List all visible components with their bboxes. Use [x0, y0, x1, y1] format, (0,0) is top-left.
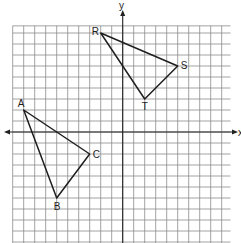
vertex-label-t: T — [142, 101, 148, 112]
y-axis-label: y — [119, 0, 124, 11]
vertex-label-c: C — [93, 149, 100, 160]
vertex-label-b: B — [54, 201, 61, 212]
axes: y x — [4, 0, 241, 243]
x-axis-label: x — [238, 127, 241, 138]
x-axis-left-arrow-icon — [4, 130, 10, 135]
grid — [13, 26, 231, 243]
coordinate-plane: y x ABCRST — [0, 0, 241, 243]
vertex-label-a: A — [18, 98, 25, 109]
vertex-label-s: S — [181, 60, 188, 71]
triangles: ABCRST — [18, 26, 188, 212]
vertex-label-r: R — [92, 26, 99, 37]
